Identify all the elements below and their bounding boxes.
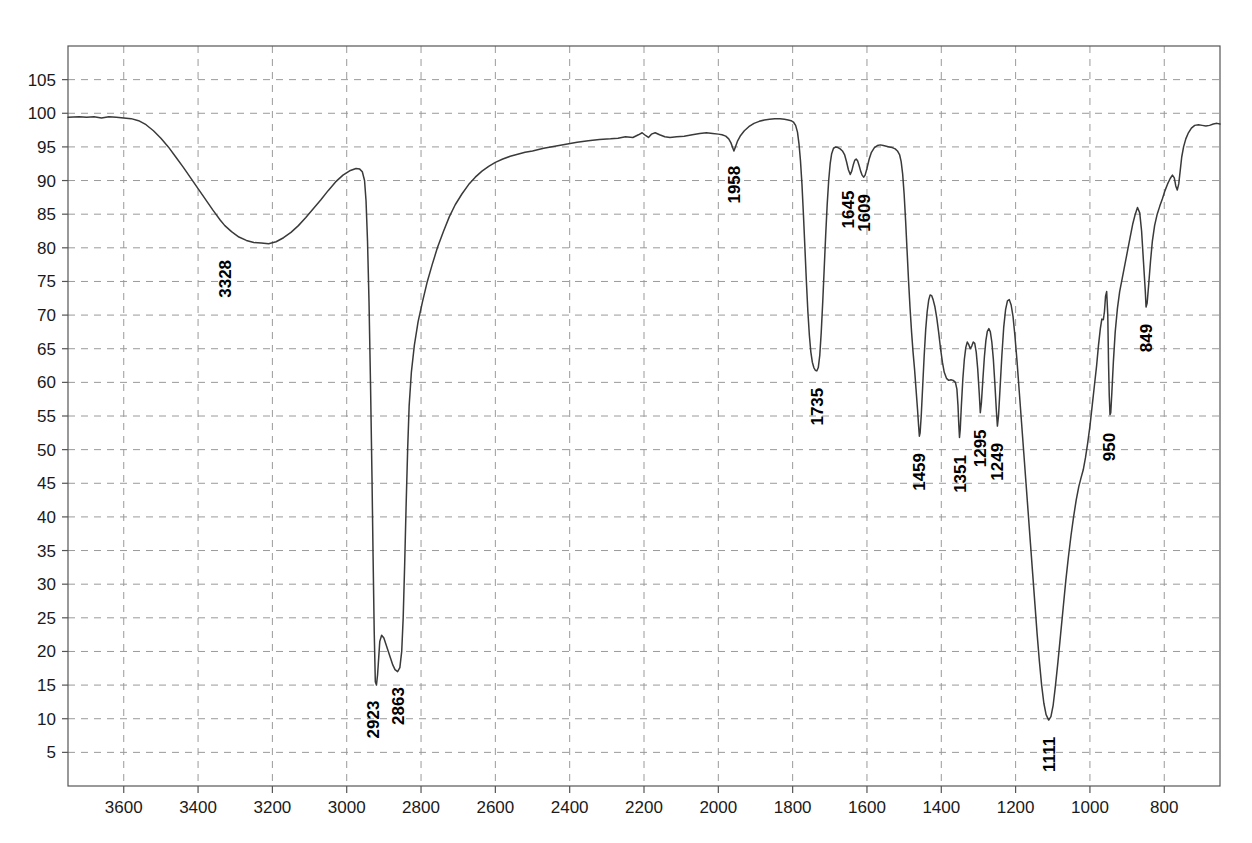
peak-label: 3328 xyxy=(216,260,235,298)
peak-label: 1111 xyxy=(1040,737,1059,772)
x-tick-label: 1600 xyxy=(848,798,886,817)
y-tick-label: 10 xyxy=(37,710,56,729)
x-tick-label: 3600 xyxy=(105,798,143,817)
y-tick-label: 60 xyxy=(37,373,56,392)
x-tick-label: 1000 xyxy=(1071,798,1109,817)
x-tick-label: 3400 xyxy=(179,798,217,817)
x-tick-label: 2400 xyxy=(551,798,589,817)
x-tick-label: 1200 xyxy=(997,798,1035,817)
y-tick-label: 70 xyxy=(37,306,56,325)
x-tick-label: 2600 xyxy=(476,798,514,817)
y-tick-label: 65 xyxy=(37,340,56,359)
y-tick-label: 45 xyxy=(37,474,56,493)
x-tick-label: 800 xyxy=(1150,798,1178,817)
y-tick-label: 105 xyxy=(28,71,56,90)
peak-label: 2923 xyxy=(364,701,383,739)
x-tick-label: 2800 xyxy=(402,798,440,817)
y-axis-ticks: 5101520253035404550556065707580859095100… xyxy=(28,71,68,763)
y-tick-label: 50 xyxy=(37,441,56,460)
y-tick-label: 25 xyxy=(37,609,56,628)
y-tick-label: 75 xyxy=(37,272,56,291)
y-tick-label: 35 xyxy=(37,542,56,561)
peak-label: 1609 xyxy=(855,194,874,232)
y-tick-label: 5 xyxy=(47,743,56,762)
grid-layer xyxy=(68,46,1220,786)
peak-label: 1958 xyxy=(725,166,744,204)
y-tick-label: 80 xyxy=(37,239,56,258)
x-tick-label: 2200 xyxy=(625,798,663,817)
x-tick-label: 3200 xyxy=(253,798,291,817)
y-tick-label: 90 xyxy=(37,172,56,191)
peak-label: 2863 xyxy=(389,687,408,725)
y-tick-label: 100 xyxy=(28,104,56,123)
y-tick-label: 85 xyxy=(37,205,56,224)
y-tick-label: 55 xyxy=(37,407,56,426)
ir-spectrum-chart: 5101520253035404550556065707580859095100… xyxy=(0,0,1252,843)
peak-label: 849 xyxy=(1137,324,1156,352)
peak-label: 1459 xyxy=(910,453,929,491)
y-tick-label: 95 xyxy=(37,138,56,157)
x-tick-label: 1800 xyxy=(774,798,812,817)
peak-label: 1351 xyxy=(951,455,970,493)
y-tick-label: 40 xyxy=(37,508,56,527)
peak-label: 1249 xyxy=(988,443,1007,481)
y-tick-label: 20 xyxy=(37,642,56,661)
peak-label: 1735 xyxy=(808,388,827,426)
y-tick-label: 15 xyxy=(37,676,56,695)
x-axis-ticks: 3600340032003000280026002400220020001800… xyxy=(105,786,1179,817)
peak-label-layer: 3328292328631958173516451609145913511295… xyxy=(216,166,1156,772)
y-tick-label: 30 xyxy=(37,575,56,594)
peak-label: 950 xyxy=(1100,433,1119,461)
x-tick-label: 1400 xyxy=(922,798,960,817)
x-tick-label: 2000 xyxy=(699,798,737,817)
x-tick-label: 3000 xyxy=(328,798,366,817)
spectrum-canvas: 5101520253035404550556065707580859095100… xyxy=(0,0,1252,843)
